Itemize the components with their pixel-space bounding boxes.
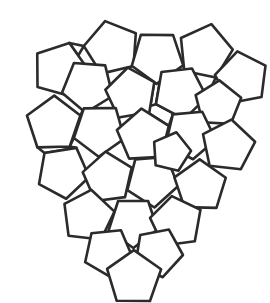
pentagon-tiling-figure: [0, 0, 270, 303]
pentagon-tiling-canvas: [0, 0, 270, 303]
